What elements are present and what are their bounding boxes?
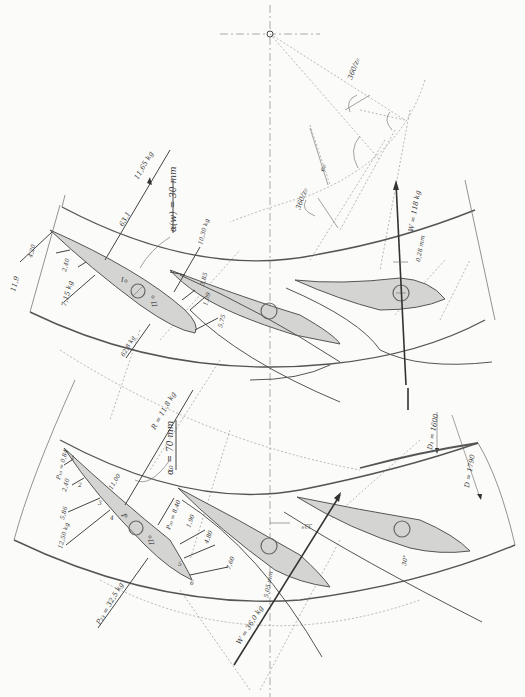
blade-upper-3 <box>295 278 445 310</box>
pitch-angle-label-mid: 360/z₀ <box>294 187 309 211</box>
force-p5-upper: 10,30 kg <box>196 218 211 246</box>
force-resultant-upper: 11,65 kg <box>133 150 156 181</box>
force-p-top-lower: P₁₀ = 0,84 <box>54 448 69 481</box>
force-pg-lower: 7,60 <box>224 555 235 570</box>
station-2: 2 <box>77 481 82 488</box>
station-4: 4 <box>109 514 114 521</box>
station-6: 6 <box>190 579 194 586</box>
force-pd-lower: 12,50 kg <box>56 522 71 550</box>
blade-cascade-diagram: 360/z₀ 360/z₀ e₀ I II <box>0 0 525 697</box>
upper-forces: 11,65 kg 63,1 α(w) = 30 mm 11,9 4,20 2,4… <box>9 150 425 385</box>
roman-I-upper: I <box>120 276 124 284</box>
force-pe-lower: 1,90 <box>184 513 195 528</box>
force-pc-lower: 11,00 <box>107 472 122 491</box>
diameter-d1: D₁ = 1600 <box>426 412 440 451</box>
alpha-lower: α₀ = 70 mm <box>165 421 175 475</box>
lower-ring <box>14 380 515 601</box>
center-axis-mark <box>220 5 320 697</box>
w-force-upper: W = 118 kg <box>407 189 422 232</box>
force-p2-upper: 4,20 <box>26 243 37 259</box>
force-p3-upper: 2,40 <box>60 257 71 273</box>
force-pa-lower: 2,40 <box>60 477 71 493</box>
angle-33-label: 33° <box>301 523 312 530</box>
station-1: 1 <box>71 454 75 461</box>
offset-upper: 0,28 mm <box>414 234 426 262</box>
blade-lower-3 <box>297 497 470 552</box>
force-p8-upper: 5,75 <box>216 313 226 328</box>
force-p4-upper: 7,15 kg <box>60 279 75 307</box>
diameter-d: D = 1790 <box>463 453 477 489</box>
force-r-value-upper: 63,1 <box>118 210 133 228</box>
force-pressure-lower: P₂₀ = 8,40 <box>164 499 182 532</box>
station-5: 5 <box>178 560 182 567</box>
station-3: 3 <box>98 499 102 506</box>
diameter-dimensions: D₁ = 1600 D = 1790 <box>360 388 482 500</box>
offset-lower: 5,05 mm <box>262 570 274 598</box>
force-pf-lower: 4,80 <box>202 529 214 545</box>
pitch-angle-markers: 360/z₀ 360/z₀ e₀ <box>294 57 392 228</box>
angle-30-label: 30° <box>400 554 409 566</box>
force-lift-lower: P₂₃ = 32,5 kg <box>94 581 125 627</box>
upper-cascade: I II <box>50 230 492 402</box>
force-pb-lower: 5,86 <box>58 505 68 520</box>
eccentricity-label: e₀ <box>318 163 328 172</box>
pitch-angle-label-top: 360/z₀ <box>346 57 361 81</box>
force-p1-upper: 11,9 <box>9 275 21 293</box>
